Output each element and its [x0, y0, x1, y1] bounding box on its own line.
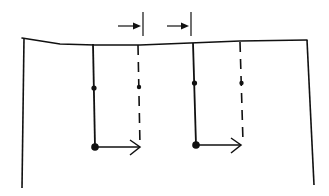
pendulum-1-dashed-string [138, 45, 140, 146]
beam-line [22, 38, 307, 45]
sketch-svg [0, 0, 329, 196]
pendulum-2-dashed-string [240, 42, 243, 142]
left-wall-line [22, 38, 24, 188]
pendulum-1-dashed-mid-dot [137, 85, 141, 89]
pendulum-diagram [0, 0, 329, 196]
pendulum-2-dashed-mid-dot [239, 81, 243, 85]
pendulum-1-mid-dot [91, 85, 96, 90]
pendulum-2-solid-string [193, 43, 196, 145]
pendulum-1-solid-string [93, 44, 95, 147]
right-wall-line [307, 40, 314, 185]
top-marker-1-arrow-head-icon [133, 23, 141, 30]
pendulum-2-mid-dot [192, 80, 197, 85]
top-marker-2-arrow-head-icon [181, 23, 189, 30]
